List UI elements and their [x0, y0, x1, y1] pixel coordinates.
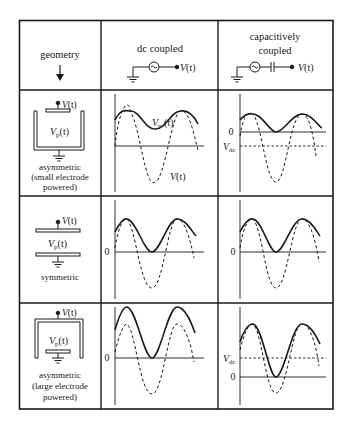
zero-label: 0 [105, 352, 110, 363]
v-curve-label: V(t) [170, 171, 186, 183]
cap-label-line2: coupled [258, 45, 292, 56]
electrode-voltage-label: V(t) [62, 216, 77, 227]
applied-voltage-curve [240, 219, 319, 288]
zero-label: 0 [231, 246, 236, 257]
applied-voltage-curve [115, 324, 194, 394]
plasma-potential-label: Vp(t) [50, 126, 69, 139]
geometry-name: (large electrode [32, 381, 88, 391]
header-dc-coupled: dc coupled V(t) [127, 43, 196, 82]
dc-plot [115, 307, 204, 405]
vdc-label: Vdc [223, 353, 236, 366]
geometry-name: asymmetric [39, 370, 81, 380]
row-symmetric: V(t) Vp(t) symmetric 0 0 [36, 200, 326, 299]
plasma-potential-curve [240, 324, 320, 377]
cap-plot [240, 307, 326, 405]
geometry-name: (small electrode [31, 172, 89, 182]
down-arrow-icon [56, 65, 64, 81]
plasma-potential-label: Vp(t) [49, 335, 68, 348]
cap-plot [240, 94, 326, 192]
row-asymmetric-large: V(t) Vp(t) asymmetric (large electrode p… [32, 307, 326, 405]
plasma-potential-curve [115, 219, 196, 252]
geometry-label: geometry [40, 49, 80, 60]
dc-plot [115, 94, 204, 192]
vp-curve-label: Vp (t) [152, 117, 174, 130]
header-geometry: geometry [40, 49, 80, 81]
plasma-potential-diagram: geometry dc coupled V(t) capacitively co… [0, 0, 350, 426]
row-asymmetric-small: V(t) Vp(t) asymmetric (small electrode p… [31, 94, 326, 192]
dc-source-circuit-icon [127, 62, 179, 82]
zero-label: 0 [229, 126, 234, 137]
dc-output-label: V(t) [180, 62, 196, 74]
zero-label: 0 [105, 246, 110, 257]
vdc-label: Vdc [223, 141, 236, 154]
applied-voltage-curve [240, 113, 316, 182]
applied-voltage-curve [115, 219, 194, 288]
applied-voltage-curve [240, 324, 319, 393]
dc-coupled-label: dc coupled [137, 43, 184, 54]
plasma-potential-curve [240, 219, 320, 252]
zero-label: 0 [231, 371, 236, 382]
capacitive-source-circuit-icon [231, 62, 294, 82]
table-border [20, 21, 334, 410]
plasma-potential-curve [115, 307, 195, 358]
electrode-voltage-label: V(t) [62, 308, 77, 319]
cap-label-line1: capacitively [250, 31, 301, 42]
electrode-voltage-label: V(t) [62, 100, 77, 111]
geometry-name: symmetric [41, 272, 79, 282]
dc-plot [115, 200, 204, 299]
header-capacitively-coupled: capacitively coupled V(t) [231, 31, 314, 82]
geometry-name: powered) [43, 392, 77, 402]
geometry-name: powered) [43, 182, 77, 192]
plasma-potential-label: Vp(t) [48, 238, 67, 251]
geometry-name: asymmetric [39, 162, 81, 172]
cap-plot [240, 200, 326, 299]
cap-output-label: V(t) [298, 62, 314, 74]
